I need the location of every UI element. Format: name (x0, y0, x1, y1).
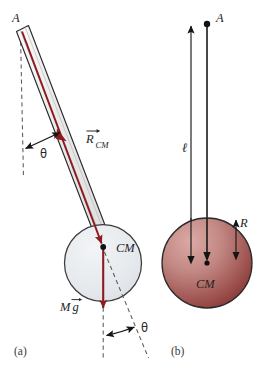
angle-label-upper: θ (40, 147, 47, 161)
angle-label-lower: θ (141, 321, 148, 335)
cm-label-b: CM (196, 277, 215, 291)
cm-label-a: CM (116, 241, 135, 255)
weight-label-group: M g (59, 298, 82, 314)
panel-b-group: A ℓ R CM (b) (162, 11, 252, 358)
panel-b-caption: (b) (171, 345, 185, 358)
pivot-label-a: A (11, 11, 20, 25)
r-cm-label: R (85, 132, 94, 146)
cm-point-a (100, 244, 106, 250)
weight-label-mass: M (59, 300, 71, 314)
angle-arc-lower (107, 327, 135, 336)
panel-a-caption: (a) (14, 345, 27, 358)
physics-figure: A R CM θ M g CM θ (a) (0, 0, 267, 374)
cm-point-b (204, 260, 209, 265)
length-label: ℓ (182, 140, 188, 155)
r-cm-label-group: R CM (85, 129, 109, 149)
r-cm-subscript: CM (96, 140, 110, 150)
weight-label-gravity: g (73, 300, 79, 314)
pivot-label-b: A (215, 11, 224, 25)
pivot-point-b (204, 21, 210, 27)
reference-line-vertical-upper (21, 34, 24, 178)
pendulum-diagram: A R CM θ M g CM θ (a) (0, 0, 267, 374)
radius-label: R (239, 216, 248, 230)
panel-a-group: A R CM θ M g CM θ (a) (11, 11, 149, 360)
